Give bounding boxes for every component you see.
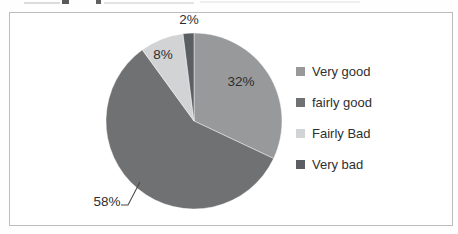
scanned-pie-chart-page: 32%58%8%2% Very good fairly good Fairly … (0, 0, 458, 234)
legend-label-fairly-good: fairly good (312, 94, 372, 111)
legend-label-fairly-bad: Fairly Bad (312, 125, 371, 142)
pie-data-label: 8% (153, 47, 173, 62)
legend-label-very-bad: Very bad (312, 156, 363, 173)
pie-data-label: 58% (93, 194, 120, 209)
legend-item-fairly-bad: Fairly Bad (296, 125, 372, 142)
legend-swatch-very-bad (296, 160, 305, 169)
legend-label-very-good: Very good (312, 63, 371, 80)
pie-data-label: 32% (227, 74, 254, 89)
legend-item-very-good: Very good (296, 63, 372, 80)
legend-swatch-fairly-good (296, 98, 305, 107)
pie-data-label: 2% (179, 12, 199, 27)
chart-legend: Very good fairly good Fairly Bad Very ba… (296, 63, 372, 173)
legend-item-very-bad: Very bad (296, 156, 372, 173)
legend-item-fairly-good: fairly good (296, 94, 372, 111)
pie-chart: 32%58%8%2% (0, 0, 458, 234)
legend-swatch-very-good (296, 67, 305, 76)
legend-swatch-fairly-bad (296, 129, 305, 138)
